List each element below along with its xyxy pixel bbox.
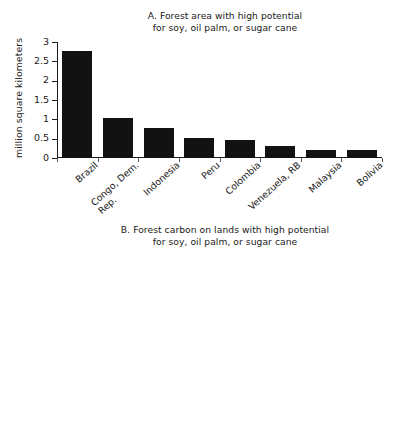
bar (144, 128, 174, 158)
chart-panel-b: B. Forest carbon on lands with high pote… (0, 214, 398, 428)
x-tick-label: Peru (200, 160, 222, 182)
chart-a-title: A. Forest area with high potential for s… (95, 10, 355, 33)
bar (62, 51, 92, 158)
chart-b-title: B. Forest carbon on lands with high pote… (95, 224, 355, 247)
x-tick-label: Bolivia (355, 160, 385, 189)
chart-panel-a: A. Forest area with high potential for s… (0, 0, 398, 214)
bar (225, 140, 255, 158)
chart-a-plot-area: 00.511.522.53 (57, 42, 382, 158)
bar (347, 150, 377, 158)
x-tick-label: Indonesia (141, 160, 181, 198)
y-tick-label: 0.5 (34, 132, 49, 143)
y-tick-label: 1.5 (34, 94, 49, 105)
bar (306, 150, 336, 159)
x-tick-label: Colombia (223, 160, 263, 197)
x-tick-label: Malaysia (307, 160, 344, 195)
bar (265, 146, 295, 158)
y-tick-label: 2 (43, 74, 49, 85)
bar (103, 118, 133, 158)
y-tick-label: 2.5 (34, 55, 49, 66)
chart-a-y-axis-label: million square kilometers (13, 38, 24, 158)
chart-a-x-axis-labels: BrazilCongo, Dem. Rep.IndonesiaPeruColom… (57, 160, 397, 216)
bar (184, 138, 214, 158)
y-tick-label: 0 (43, 152, 49, 163)
y-tick-label: 3 (43, 36, 49, 47)
figure-container: A. Forest area with high potential for s… (0, 0, 398, 428)
chart-a-bars (57, 42, 382, 158)
x-tick-label: Brazil (74, 160, 100, 185)
y-tick-label: 1 (43, 113, 49, 124)
